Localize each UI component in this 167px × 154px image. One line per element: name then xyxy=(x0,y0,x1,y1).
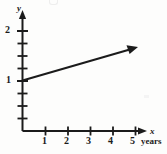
y-axis-label: y xyxy=(17,4,21,13)
x-tick-label-2: 2 xyxy=(64,136,69,146)
x-axis-unit-label: years xyxy=(141,137,162,146)
x-axis-label: x xyxy=(150,127,155,136)
coordinate-plot xyxy=(0,0,167,154)
data-line-arrowhead xyxy=(127,45,139,54)
x-tick-label-4: 4 xyxy=(108,136,113,146)
x-tick-label-1: 1 xyxy=(42,136,47,146)
x-tick-label-5: 5 xyxy=(130,136,135,146)
x-axis-arrowhead xyxy=(138,127,147,134)
x-tick-label-3: 3 xyxy=(86,136,91,146)
data-line xyxy=(23,49,132,81)
graph-figure: 2 1 y 1 2 3 4 5 x years xyxy=(0,0,167,154)
y-tick-label-2: 2 xyxy=(5,25,10,35)
y-tick-label-1: 1 xyxy=(6,75,11,85)
data-line-series xyxy=(23,45,139,80)
